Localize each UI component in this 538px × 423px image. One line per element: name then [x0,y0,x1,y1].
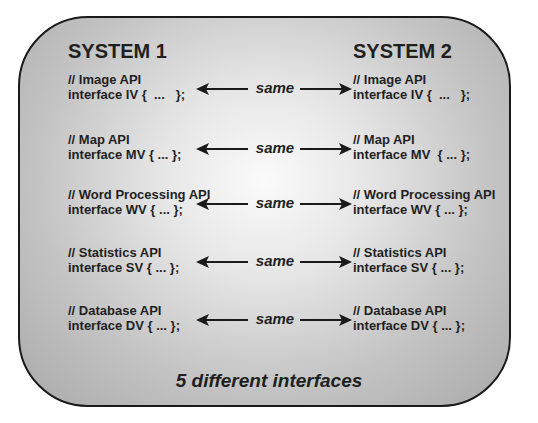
system-2-interface: // Statistics API interface SV { ... }; [353,245,464,275]
interface-declaration: interface DV { ... }; [68,318,180,333]
interface-row: // Statistics API interface SV { ... }; … [0,245,538,279]
interface-declaration: interface WV { ... }; [353,202,468,217]
interface-declaration: interface SV { ... }; [353,260,464,275]
interface-comment: // Map API [353,132,415,147]
system-1-title: SYSTEM 1 [68,40,167,63]
interface-comment: // Database API [68,303,161,318]
interface-comment: // Image API [68,72,141,87]
interface-declaration: interface WV { ... }; [68,202,183,217]
interface-declaration: interface MV { ... }; [353,147,470,162]
interface-declaration: interface IV { ... }; [68,87,185,102]
same-label: same [250,139,300,156]
system-1-interface: // Database API interface DV { ... }; [68,303,180,333]
interface-declaration: interface SV { ... }; [68,260,179,275]
interface-declaration: interface IV { ... }; [353,87,470,102]
interface-comment: // Word Processing API [68,187,210,202]
system-2-title: SYSTEM 2 [353,40,452,63]
interface-row: // Database API interface DV { ... }; sa… [0,303,538,337]
same-label: same [250,310,300,327]
interface-row: // Map API interface MV { ... }; same //… [0,132,538,166]
system-1-interface: // Word Processing API interface WV { ..… [68,187,210,217]
footer-caption: 5 different interfaces [0,370,538,392]
interface-comment: // Database API [353,303,446,318]
system-2-interface: // Map API interface MV { ... }; [353,132,470,162]
system-2-interface: // Image API interface IV { ... }; [353,72,470,102]
system-1-interface: // Map API interface MV { ... }; [68,132,181,162]
interface-comment: // Statistics API [353,245,446,260]
system-1-interface: // Statistics API interface SV { ... }; [68,245,179,275]
interface-comment: // Statistics API [68,245,161,260]
system-2-interface: // Database API interface DV { ... }; [353,303,465,333]
same-label: same [250,194,300,211]
interface-comment: // Image API [353,72,426,87]
interface-row: // Word Processing API interface WV { ..… [0,187,538,221]
interface-comment: // Word Processing API [353,187,495,202]
system-2-interface: // Word Processing API interface WV { ..… [353,187,495,217]
interface-row: // Image API interface IV { ... }; same … [0,72,538,106]
system-1-interface: // Image API interface IV { ... }; [68,72,185,102]
same-label: same [250,252,300,269]
interface-comment: // Map API [68,132,130,147]
interface-declaration: interface DV { ... }; [353,318,465,333]
interface-declaration: interface MV { ... }; [68,147,181,162]
same-label: same [250,79,300,96]
